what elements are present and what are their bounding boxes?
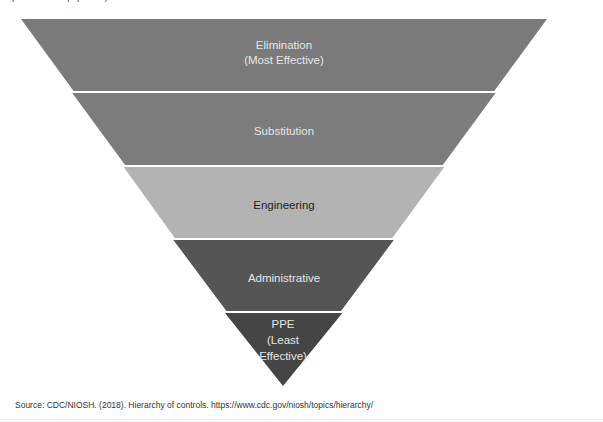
divider bbox=[0, 419, 603, 420]
label-elimination: Elimination (Most Effective) bbox=[244, 38, 324, 68]
label-ppe-line1: PPE bbox=[259, 316, 307, 332]
label-engineering-line1: Engineering bbox=[253, 198, 314, 213]
label-elimination-line2: (Most Effective) bbox=[244, 53, 324, 68]
label-ppe-line3: Effective) bbox=[259, 348, 307, 364]
label-substitution: Substitution bbox=[254, 124, 314, 139]
label-administrative: Administrative bbox=[248, 271, 320, 286]
label-administrative-line1: Administrative bbox=[248, 271, 320, 286]
label-ppe-line2: (Least bbox=[259, 332, 307, 348]
source-citation: Source: CDC/NIOSH. (2018). Hierarchy of … bbox=[15, 400, 373, 410]
label-substitution-line1: Substitution bbox=[254, 124, 314, 139]
label-elimination-line1: Elimination bbox=[244, 38, 324, 53]
label-ppe: PPE (Least Effective) bbox=[259, 316, 307, 364]
label-engineering: Engineering bbox=[253, 198, 314, 213]
